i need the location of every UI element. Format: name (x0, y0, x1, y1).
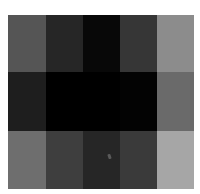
mosaic-cell-r1-c4 (157, 72, 194, 131)
mosaic-cell-r2-c0 (8, 131, 46, 189)
mosaic-cell-r0-c2 (83, 15, 120, 72)
mosaic-cell-r2-c3 (120, 131, 157, 189)
mosaic-cell-r1-c2 (83, 72, 120, 131)
mosaic-cell-r1-c3 (120, 72, 157, 131)
mosaic-cell-r2-c4 (157, 131, 194, 189)
mosaic-cell-r0-c1 (46, 15, 83, 72)
mosaic-cell-r1-c0 (8, 72, 46, 131)
mosaic-cell-r2-c2 (83, 131, 120, 189)
mosaic-cell-r0-c4 (157, 15, 194, 72)
mosaic-cell-r2-c1 (46, 131, 83, 189)
mosaic-cell-r0-c3 (120, 15, 157, 72)
image-canvas (0, 0, 200, 194)
mosaic-cell-r1-c1 (46, 72, 83, 131)
mosaic-cell-r0-c0 (8, 15, 46, 72)
pixel-mosaic-grid (8, 15, 194, 189)
